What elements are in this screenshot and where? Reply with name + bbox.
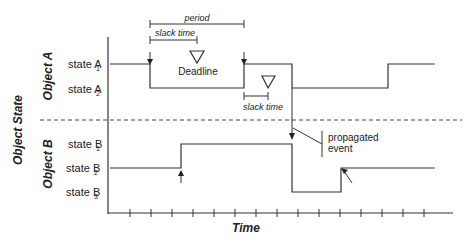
state-label-b2: state B 2 xyxy=(66,162,100,176)
object-b-signal xyxy=(110,144,435,192)
propagated-event-label-line1: propagated xyxy=(328,132,379,143)
state-label-a2: state A 2 xyxy=(68,83,102,97)
deadline-triangle-icon-2 xyxy=(262,76,275,88)
event-arrow-down-icon-1 xyxy=(147,52,153,65)
event-arrow-up-icon xyxy=(178,170,184,183)
state-label-b3: state B 3 xyxy=(66,186,100,200)
period-label: period xyxy=(183,13,210,23)
object-b-title: Object B xyxy=(41,139,55,189)
propagated-event-arrow-icon xyxy=(289,88,295,140)
event-arrow-down-icon-2 xyxy=(241,52,247,65)
object-a-title: Object A xyxy=(41,52,55,101)
timing-diagram: Object State Object A Object B state A 1… xyxy=(0,0,469,247)
svg-text:1: 1 xyxy=(96,65,100,72)
state-label-a1: state A 1 xyxy=(68,58,102,72)
svg-text:2: 2 xyxy=(96,90,100,97)
deadline-label: Deadline xyxy=(178,66,218,77)
state-label-b1: state B 1 xyxy=(68,138,102,152)
svg-text:3: 3 xyxy=(94,193,98,200)
slack-time-label-1: slack time xyxy=(155,28,195,38)
deadline-triangle-icon-1 xyxy=(190,51,204,63)
propagated-event-label-line2: event xyxy=(328,143,353,154)
slack-time-label-2: slack time xyxy=(243,102,283,112)
transition-arrow-icon xyxy=(341,168,352,183)
x-axis-title: Time xyxy=(232,221,260,235)
slack-time-bracket-2 xyxy=(244,92,268,100)
propagated-event-leader xyxy=(293,128,322,144)
svg-text:2: 2 xyxy=(94,169,98,176)
y-axis-title: Object State xyxy=(11,95,25,165)
svg-text:1: 1 xyxy=(96,145,100,152)
